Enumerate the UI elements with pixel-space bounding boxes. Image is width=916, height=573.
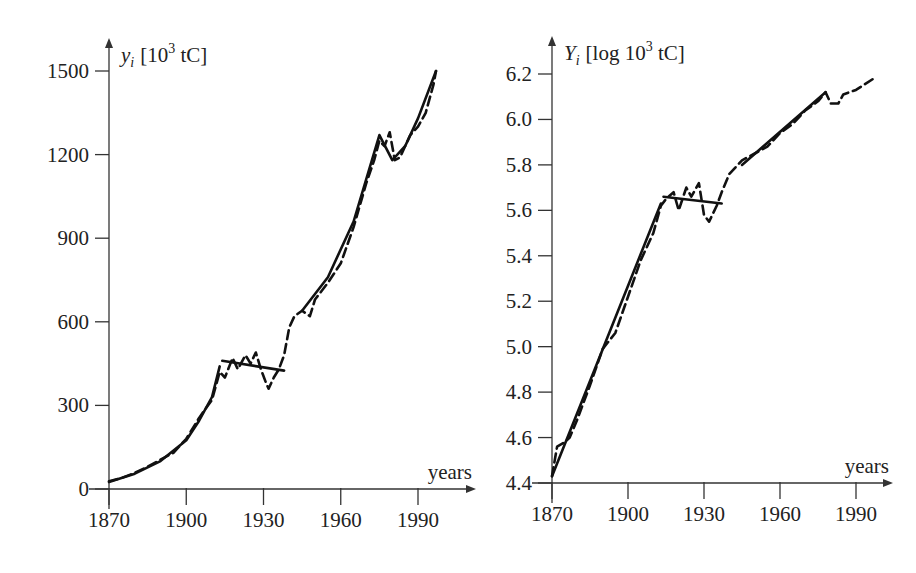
y-axis-arrow-icon bbox=[548, 36, 556, 46]
y-axis-label: Yi[log 103 tC] bbox=[564, 39, 685, 68]
x-tick-label: 1930 bbox=[683, 502, 725, 526]
y-tick-label: 6.2 bbox=[506, 62, 532, 86]
fitted-trend-line bbox=[109, 366, 220, 482]
fitted-trend-line bbox=[222, 361, 284, 371]
y-tick-label: 5.0 bbox=[506, 335, 532, 359]
x-axis-label: years bbox=[428, 460, 472, 484]
y-tick-label: 1200 bbox=[47, 143, 89, 167]
y-tick-label: 600 bbox=[58, 310, 90, 334]
x-tick-label: 1900 bbox=[607, 502, 649, 526]
chart-figure: 18701900193019601990030060090012001500ye… bbox=[0, 0, 916, 573]
fitted-trend-line bbox=[552, 204, 661, 477]
y-axis-label: yi[103 tC] bbox=[119, 41, 207, 70]
x-axis-arrow-icon bbox=[883, 479, 893, 487]
y-tick-label: 900 bbox=[58, 226, 90, 250]
y-tick-label: 1500 bbox=[47, 59, 89, 83]
left-chart-absolute-emissions: 18701900193019601990030060090012001500ye… bbox=[47, 38, 476, 532]
x-tick-label: 1990 bbox=[397, 508, 439, 532]
y-tick-label: 300 bbox=[58, 393, 90, 417]
x-tick-label: 1990 bbox=[835, 502, 877, 526]
x-axis-label: years bbox=[845, 454, 889, 478]
y-tick-label: 5.4 bbox=[506, 244, 533, 268]
observed-series-line bbox=[109, 71, 436, 481]
y-tick-label: 5.2 bbox=[506, 289, 532, 313]
fitted-trend-line bbox=[742, 92, 826, 165]
fitted-trend-line bbox=[302, 71, 436, 311]
x-tick-label: 1960 bbox=[320, 508, 362, 532]
y-tick-label: 5.8 bbox=[506, 153, 532, 177]
y-tick-label: 6.0 bbox=[506, 107, 532, 131]
y-tick-label: 4.4 bbox=[506, 471, 533, 495]
x-tick-label: 1930 bbox=[243, 508, 285, 532]
y-tick-label: 0 bbox=[79, 477, 90, 501]
x-tick-label: 1900 bbox=[165, 508, 207, 532]
observed-series-line bbox=[552, 79, 874, 477]
right-chart-log-emissions: 187019001930196019904.44.64.85.05.25.45.… bbox=[506, 36, 893, 526]
x-tick-label: 1870 bbox=[88, 508, 130, 532]
y-tick-label: 5.6 bbox=[506, 198, 532, 222]
x-tick-label: 1870 bbox=[531, 502, 573, 526]
y-tick-label: 4.8 bbox=[506, 380, 532, 404]
y-axis-arrow-icon bbox=[105, 38, 113, 48]
y-tick-label: 4.6 bbox=[506, 426, 532, 450]
x-axis-arrow-icon bbox=[466, 485, 476, 493]
fitted-trend-line bbox=[664, 197, 722, 204]
x-tick-label: 1960 bbox=[759, 502, 801, 526]
